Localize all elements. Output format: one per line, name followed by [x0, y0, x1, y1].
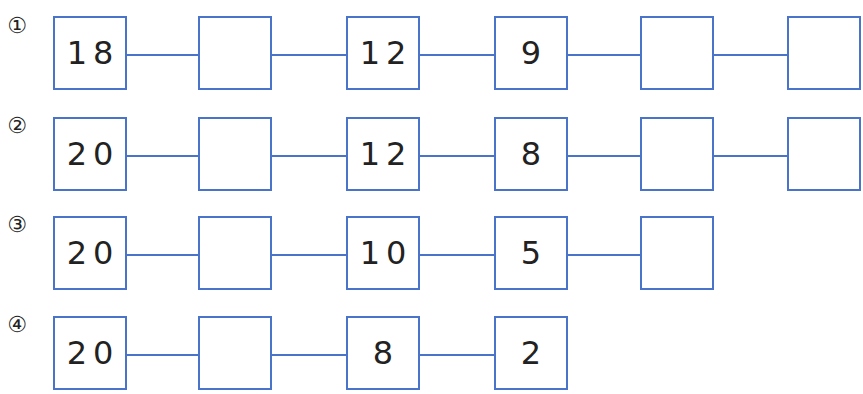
connector-line — [420, 54, 494, 56]
answer-box-empty[interactable] — [640, 216, 714, 290]
problem-row-4: ④2082 — [0, 316, 863, 394]
connector-line — [714, 155, 787, 157]
connector-line — [127, 155, 198, 157]
answer-box-empty[interactable] — [640, 117, 714, 191]
connector-line — [420, 254, 494, 256]
number-box: 12 — [346, 16, 420, 90]
problem-row-2: ②20128 — [0, 117, 863, 195]
number-box: 8 — [494, 117, 568, 191]
answer-box-empty[interactable] — [198, 117, 272, 191]
answer-box-empty[interactable] — [198, 16, 272, 90]
number-box: 20 — [53, 216, 127, 290]
problem-row-1: ①18129 — [0, 16, 863, 94]
connector-line — [714, 54, 787, 56]
answer-box-empty[interactable] — [787, 117, 861, 191]
number-box: 12 — [346, 117, 420, 191]
connector-line — [127, 254, 198, 256]
connector-line — [272, 354, 346, 356]
connector-line — [568, 254, 640, 256]
number-box: 10 — [346, 216, 420, 290]
problem-row-3: ③20105 — [0, 216, 863, 294]
connector-line — [272, 54, 346, 56]
connector-line — [568, 155, 640, 157]
connector-line — [420, 155, 494, 157]
problem-number: ② — [6, 115, 28, 137]
answer-box-empty[interactable] — [198, 216, 272, 290]
connector-line — [568, 54, 640, 56]
connector-line — [420, 354, 494, 356]
problem-number: ④ — [6, 314, 28, 336]
answer-box-empty[interactable] — [198, 316, 272, 390]
number-box: 9 — [494, 16, 568, 90]
number-box: 20 — [53, 316, 127, 390]
number-box: 8 — [346, 316, 420, 390]
connector-line — [127, 354, 198, 356]
problem-number: ③ — [6, 214, 28, 236]
number-box: 20 — [53, 117, 127, 191]
number-box: 18 — [53, 16, 127, 90]
number-box: 5 — [494, 216, 568, 290]
connector-line — [127, 54, 198, 56]
problem-number: ① — [6, 15, 28, 37]
connector-line — [272, 254, 346, 256]
number-box: 2 — [494, 316, 568, 390]
answer-box-empty[interactable] — [787, 16, 861, 90]
answer-box-empty[interactable] — [640, 16, 714, 90]
connector-line — [272, 155, 346, 157]
